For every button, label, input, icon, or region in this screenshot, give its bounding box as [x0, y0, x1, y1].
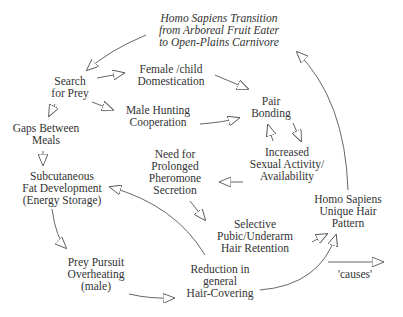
node-line: Availability: [250, 170, 324, 182]
node-line: general: [187, 275, 254, 287]
node-line: Overheating: [68, 268, 125, 280]
node-female-child-domestication: Female /child Domestication: [137, 63, 204, 87]
node-line: Gaps Between: [13, 122, 80, 134]
node-line: Cooperation: [126, 116, 190, 128]
node-selective-hair-retention: Selective Pubic/Underarm Hair Retention: [217, 218, 293, 254]
node-line: Pattern: [314, 217, 381, 229]
node-line: Selective: [217, 218, 293, 230]
node-line: Prolonged: [149, 160, 201, 172]
edge-pair-sexual: [293, 123, 301, 141]
edge-overheating-reduction: [129, 294, 174, 298]
node-line: Unique Hair: [314, 205, 381, 217]
node-line: Need for: [149, 148, 201, 160]
node-line: Subcutaneous: [22, 170, 102, 182]
node-line: Domestication: [137, 75, 204, 87]
node-male-hunting-cooperation: Male Hunting Cooperation: [126, 104, 190, 128]
node-gaps-between-meals: Gaps Between Meals: [13, 122, 80, 146]
node-line: for Prey: [51, 87, 88, 99]
node-transition: Homo Sapiens Transition from Arboreal Fr…: [159, 12, 279, 48]
node-line: Search: [51, 75, 88, 87]
node-line: (Energy Storage): [22, 194, 102, 206]
node-line: Female /child: [137, 63, 204, 75]
node-line: Hair-Covering: [187, 287, 254, 299]
edge-male-pair: [200, 118, 239, 124]
node-prey-pursuit-overheating: Prey Pursuit Overheating (male): [68, 256, 125, 292]
node-line: Homo Sapiens: [314, 193, 381, 205]
node-line: Secretion: [149, 184, 201, 196]
node-line: Bonding: [251, 107, 291, 119]
node-line: Pair: [251, 95, 291, 107]
node-line: Fat Development: [22, 182, 102, 194]
edge-search-gaps: [49, 104, 55, 116]
node-line: Male Hunting: [126, 104, 190, 116]
node-reduction-hair-covering: Reduction in general Hair-Covering: [187, 263, 254, 299]
node-line: Increased: [250, 146, 324, 158]
edge-sexual-pair: [268, 125, 273, 141]
node-line: Sexual Activity/: [250, 158, 324, 170]
edge-reduction-fat: [110, 187, 205, 255]
edge-selective-unique: [312, 234, 327, 242]
node-subcutaneous-fat: Subcutaneous Fat Development (Energy Sto…: [22, 170, 102, 206]
node-line: (male): [68, 280, 125, 292]
node-unique-hair-pattern: Homo Sapiens Unique Hair Pattern: [314, 193, 381, 229]
node-increased-sexual-activity: Increased Sexual Activity/ Availability: [250, 146, 324, 182]
edge-female-pair: [215, 75, 248, 89]
node-line: Homo Sapiens Transition: [159, 12, 279, 24]
node-line: Pubic/Underarm: [217, 230, 293, 242]
node-line: Reduction in: [187, 263, 254, 275]
node-pair-bonding: Pair Bonding: [251, 95, 291, 119]
node-line: Hair Retention: [217, 242, 293, 254]
node-line: Pheromone: [149, 172, 201, 184]
edge-fat-overheating: [52, 209, 66, 248]
node-line: from Arboreal Fruit Eater: [159, 24, 279, 36]
edge-search-female: [97, 73, 124, 78]
node-line: Prey Pursuit: [68, 256, 125, 268]
node-line: Meals: [13, 134, 80, 146]
edge-pheromone-selective: [190, 201, 205, 220]
node-line: to Open-Plains Carnivore: [159, 36, 279, 48]
legend-causes-label: 'causes': [338, 268, 372, 280]
node-search-for-prey: Search for Prey: [51, 75, 88, 99]
edge-search-male: [92, 102, 113, 110]
node-need-prolonged-pheromone: Need for Prolonged Pheromone Secretion: [149, 148, 201, 196]
